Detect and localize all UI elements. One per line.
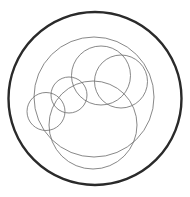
inner-circles-group	[27, 37, 154, 169]
circle-small-left	[27, 93, 65, 131]
diagram-svg	[0, 0, 190, 197]
circle-medium-right	[95, 55, 148, 108]
circle-large-upper	[34, 37, 154, 157]
circle-small-middle	[51, 77, 87, 113]
nested-circles-diagram	[0, 0, 190, 197]
outer-circle	[9, 12, 182, 185]
